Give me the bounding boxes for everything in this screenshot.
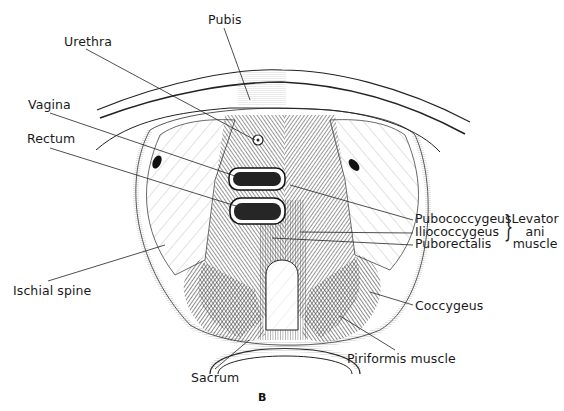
label-pubis: Pubis bbox=[208, 14, 242, 27]
rectum-opening bbox=[230, 198, 285, 224]
label-vagina: Vagina bbox=[28, 99, 71, 112]
group-label-line3: muscle bbox=[509, 238, 561, 251]
label-rectum: Rectum bbox=[27, 133, 75, 146]
label-puborectalis: Puborectalis bbox=[415, 238, 512, 251]
pelvic-floor-illustration bbox=[0, 0, 564, 411]
levator-ani-group-label: Levator ani muscle bbox=[509, 213, 561, 251]
vagina-opening bbox=[229, 168, 285, 190]
label-coccygeus: Coccygeus bbox=[415, 300, 483, 313]
label-ischial-spine: Ischial spine bbox=[13, 285, 91, 298]
label-piriformis: Piriformis muscle bbox=[347, 353, 456, 366]
label-sacrum: Sacrum bbox=[191, 372, 239, 385]
panel-label: B bbox=[258, 391, 266, 404]
levator-ani-components: Pubococcygeus Iliococcygeus Puborectalis bbox=[415, 213, 512, 251]
label-urethra: Urethra bbox=[64, 36, 112, 49]
